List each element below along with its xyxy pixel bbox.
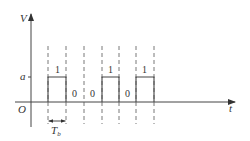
y-axis-label: V <box>20 12 28 24</box>
waveform-diagram: V t O a 1 0 0 1 0 1 Tb <box>0 0 250 141</box>
origin-label: O <box>18 103 26 115</box>
bit-boundaries <box>48 46 154 124</box>
bit-label-2: 0 <box>72 88 77 99</box>
x-axis-label: t <box>229 102 233 114</box>
tb-label: Tb <box>51 124 61 138</box>
bit-label-6: 1 <box>142 64 147 75</box>
level-a-label: a <box>20 70 26 82</box>
bit-label-4: 1 <box>108 64 113 75</box>
bit-label-5: 0 <box>125 88 130 99</box>
bit-label-1: 1 <box>55 64 60 75</box>
pulse-train <box>48 77 154 102</box>
bit-label-3: 0 <box>90 88 95 99</box>
